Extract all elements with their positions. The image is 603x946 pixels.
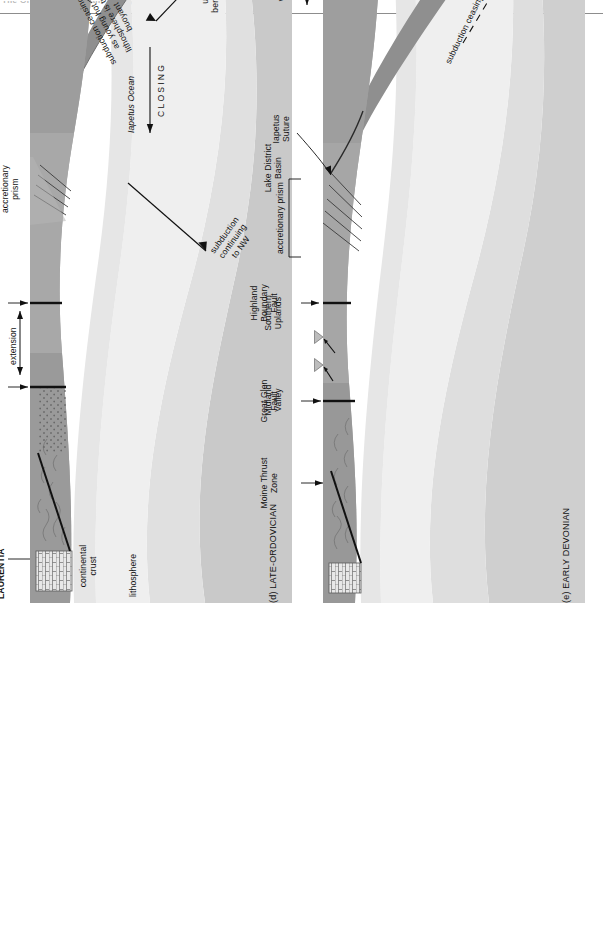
annotation-continental-crust: continental crust (78, 537, 98, 595)
annotation-closing: CLOSING (156, 63, 166, 117)
structure-label-great-glen-fault-e: Great Glen Fault (259, 363, 279, 439)
structure-label-highland-boundary-fault-e: Highland Boundary Fault (249, 267, 279, 339)
terrane-label-welsh-basin-e: Welsh Basin (277, 0, 287, 15)
annotation-iapetus-ocean: Iapetus Ocean (126, 76, 136, 133)
structure-label-moine-thrust-zone-e: Moine Thrust Zone (259, 445, 279, 521)
cross-section-e (293, 0, 585, 603)
panel-early-devonian: Midland Valley Southern Uplands Lake Dis… (293, 0, 585, 603)
annotation-lithosphere: lithosphere (128, 554, 138, 597)
figure-stage: NW LAURENTIA SE AVALONIA SCOTLAND Highla… (0, 0, 585, 603)
structure-label-iapetus-suture: Iapetus Suture (271, 101, 291, 157)
margin-label-laurentia: LAURENTIA (0, 548, 6, 599)
annotation-accretionary-prism-e: accretionary prism (275, 163, 285, 273)
annotation-accretionary-prism: accretionary prism (0, 147, 20, 231)
annotation-upwelling-mantle: upwelling mantle beneath oceanic slab (200, 0, 220, 37)
panel-caption-e: (e) EARLY DEVONIAN (561, 508, 571, 603)
annotation-extension: extension (8, 327, 18, 365)
